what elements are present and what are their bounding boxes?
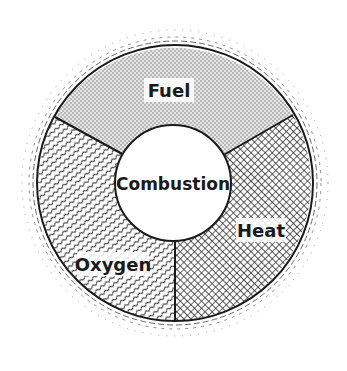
label-combustion: Combustion — [116, 174, 230, 194]
label-fuel: Fuel — [148, 80, 191, 101]
label-heat: Heat — [237, 220, 285, 241]
label-oxygen: Oxygen — [75, 254, 152, 275]
combustion-diagram: Fuel Combustion Heat Oxygen — [0, 0, 347, 371]
